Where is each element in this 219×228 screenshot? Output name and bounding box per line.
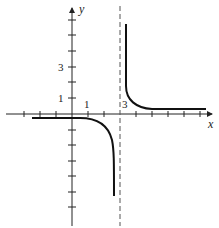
x-tick-label-3: 3: [122, 98, 128, 110]
y-tick-label-3: 3: [58, 61, 64, 73]
y-tick-label-1: 1: [58, 92, 64, 104]
curve-right-branch: [126, 24, 206, 109]
x-axis-label: x: [207, 117, 214, 131]
x-tick-label-1: 1: [84, 98, 90, 110]
y-axis-label: y: [78, 2, 85, 16]
function-graph: y x 3 1 1 3: [0, 0, 219, 228]
